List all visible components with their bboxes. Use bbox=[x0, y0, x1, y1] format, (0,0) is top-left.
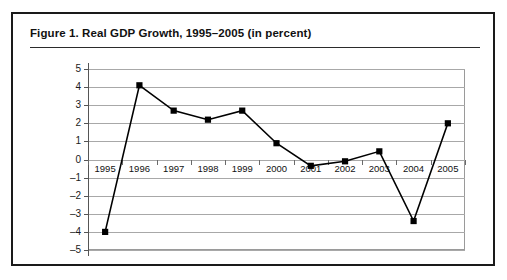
data-point-marker bbox=[376, 148, 382, 154]
series-line bbox=[105, 85, 448, 232]
figure-title: Figure 1. Real GDP Growth, 1995–2005 (in… bbox=[30, 27, 311, 39]
y-axis-tick bbox=[84, 250, 89, 251]
title-divider bbox=[30, 47, 480, 48]
data-point-marker bbox=[273, 140, 279, 146]
y-axis-tick-label: –4 bbox=[70, 227, 81, 237]
data-point-marker bbox=[171, 108, 177, 114]
data-point-marker bbox=[205, 117, 211, 123]
y-axis-tick-label: 2 bbox=[75, 118, 81, 128]
y-axis-tick-label: –2 bbox=[70, 191, 81, 201]
y-axis-tick-label: 3 bbox=[75, 100, 81, 110]
y-axis-tick-label: –1 bbox=[70, 173, 81, 183]
data-series bbox=[88, 69, 465, 250]
y-axis-tick-label: –3 bbox=[70, 209, 81, 219]
y-axis-tick-label: –5 bbox=[70, 245, 81, 255]
data-point-marker bbox=[308, 163, 314, 169]
y-axis-tick-label: 0 bbox=[75, 155, 81, 165]
data-point-marker bbox=[239, 108, 245, 114]
chart-plot-area: 543210–1–2–3–4–5 19951996199719981999200… bbox=[88, 69, 465, 250]
y-axis-tick-label: 4 bbox=[75, 82, 81, 92]
x-axis-tick bbox=[465, 160, 466, 165]
data-point-marker bbox=[136, 82, 142, 88]
gridline bbox=[88, 250, 465, 251]
data-point-marker bbox=[102, 229, 108, 235]
data-point-marker bbox=[445, 120, 451, 126]
data-point-marker bbox=[410, 218, 416, 224]
y-axis-tick-label: 5 bbox=[75, 64, 81, 74]
figure-container: Figure 1. Real GDP Growth, 1995–2005 (in… bbox=[11, 12, 495, 266]
y-axis-tick-label: 1 bbox=[75, 136, 81, 146]
data-point-marker bbox=[342, 158, 348, 164]
